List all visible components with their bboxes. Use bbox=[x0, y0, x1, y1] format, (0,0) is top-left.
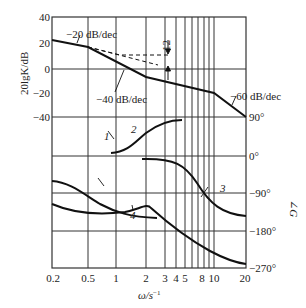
plot-frame bbox=[52, 17, 246, 268]
right-axis-ticks: 90° 0° −90° −180° −270° bbox=[249, 111, 276, 274]
label-minus60-slope: −60 dB/dec bbox=[230, 90, 281, 102]
x-tick: 0.5 bbox=[81, 272, 95, 284]
x-tick: 1 bbox=[113, 272, 119, 284]
y-left-tick: 20 bbox=[39, 37, 51, 49]
y-right-tick: 0° bbox=[249, 150, 259, 162]
magnitude-curve bbox=[52, 40, 246, 117]
y-left-tick: 0 bbox=[45, 63, 51, 75]
label-minus40-slope: −40 dB/dec bbox=[96, 93, 147, 105]
x-tick: 3 bbox=[162, 272, 168, 284]
x-tick: 0.2 bbox=[46, 272, 60, 284]
magnitude-dashed-2 bbox=[88, 47, 158, 65]
x-tick: 8 bbox=[199, 272, 205, 284]
y-right-axis-title: ∠G bbox=[288, 200, 300, 217]
curve-label-3: 3 bbox=[219, 182, 226, 194]
y-left-tick: 40 bbox=[39, 11, 51, 23]
x-tick: 20 bbox=[240, 272, 252, 284]
left-axis-ticks: 40 20 0 −20 −40 bbox=[33, 11, 51, 123]
label-12-db: 12 bbox=[160, 40, 172, 51]
x-tick: 4 bbox=[173, 272, 179, 284]
y-right-tick: −270° bbox=[249, 262, 276, 274]
curve-label-2: 2 bbox=[131, 123, 137, 135]
x-axis-title: ω/s−1 bbox=[138, 289, 161, 301]
x-tick: 2 bbox=[143, 272, 149, 284]
x-tick: 5 bbox=[182, 272, 188, 284]
annotation-leaders bbox=[77, 35, 236, 210]
phase-curve-4 bbox=[52, 204, 246, 264]
y-right-tick: −180° bbox=[249, 225, 276, 237]
curve-label-4: 4 bbox=[130, 209, 136, 221]
y-left-tick: −20 bbox=[33, 87, 51, 99]
x-axis-title-sup: −1 bbox=[153, 289, 161, 297]
phase-curve-3 bbox=[142, 159, 246, 216]
y-right-tick: −90° bbox=[249, 187, 271, 199]
x-axis-title-main: ω/s bbox=[138, 289, 153, 301]
bode-chart: −20 dB/dec −40 dB/dec −60 dB/dec 12 1 2 … bbox=[0, 0, 306, 308]
curve-label-1: 1 bbox=[104, 130, 110, 142]
x-axis-ticks: 0.2 0.5 1 2 3 4 5 8 10 20 bbox=[46, 272, 251, 284]
label-minus20-slope: −20 dB/dec bbox=[66, 28, 117, 40]
y-right-tick: 90° bbox=[249, 111, 264, 123]
y-left-axis-title: 20lgK/dB bbox=[18, 52, 30, 95]
y-left-tick: −40 bbox=[33, 111, 51, 123]
x-tick: 10 bbox=[209, 272, 221, 284]
